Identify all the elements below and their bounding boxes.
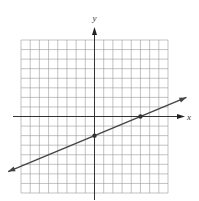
point-y-intercept [92,133,96,137]
point-x-intercept [138,114,142,118]
line-arrow-end-icon [179,97,186,102]
x-axis-arrow-icon [177,114,185,119]
line-arrow-start-icon [8,166,15,171]
series-line [8,97,186,171]
coordinate-plane: x y [0,0,199,201]
y-axis-label: y [92,13,97,23]
x-axis-label: x [186,112,191,122]
y-axis-arrow-icon [92,27,97,35]
series-layer [8,97,186,171]
